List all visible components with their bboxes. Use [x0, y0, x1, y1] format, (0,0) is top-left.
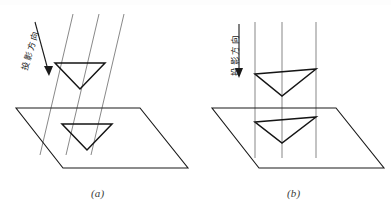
ray-line	[91, 14, 124, 155]
ray-line	[40, 14, 73, 155]
direction-arrow-head	[44, 66, 53, 76]
top-edge-strip	[0, 0, 391, 5]
panel-caption-a: (a)	[91, 187, 104, 199]
projection-diagram-canvas	[0, 0, 391, 214]
projection-direction-label-b: 投影方向	[228, 34, 240, 76]
projection-plane	[16, 108, 188, 168]
projected-triangle	[255, 117, 316, 143]
panel-caption-b: (b)	[287, 187, 300, 199]
panel-a-group	[16, 14, 188, 168]
source-triangle	[255, 69, 316, 96]
panel-b-rays	[255, 22, 316, 158]
panel-a-rays	[40, 14, 124, 155]
source-triangle	[55, 63, 105, 89]
figure-root: 投影方向 投影方向 (a) (b)	[0, 0, 391, 214]
projected-triangle	[62, 124, 112, 150]
projection-plane	[212, 108, 384, 168]
